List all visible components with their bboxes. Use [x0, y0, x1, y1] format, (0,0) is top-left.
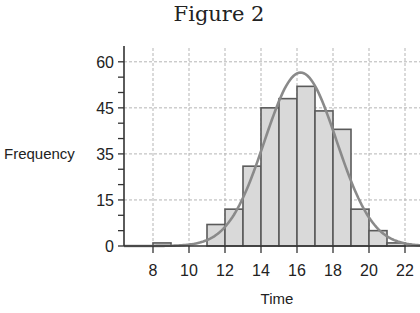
x-tick-label: 8 [149, 262, 158, 279]
x-axis-ticks: 810121416182022 [149, 246, 414, 279]
histogram-bar [333, 129, 351, 246]
x-tick-label: 20 [360, 262, 378, 279]
x-tick-label: 12 [216, 262, 234, 279]
y-tick-label: 15 [96, 192, 114, 209]
y-axis-ticks: 015354560 [96, 54, 124, 255]
y-tick-label: 0 [105, 238, 114, 255]
x-tick-label: 18 [324, 262, 342, 279]
histogram-chart: 015354560 810121416182022 Frequency Time [0, 0, 420, 313]
x-tick-label: 10 [180, 262, 198, 279]
y-axis-label: Frequency [4, 145, 75, 162]
y-tick-label: 60 [96, 54, 114, 71]
x-axis-label: Time [261, 290, 294, 307]
y-tick-label: 45 [96, 100, 114, 117]
x-tick-label: 14 [252, 262, 270, 279]
x-tick-label: 22 [396, 262, 414, 279]
y-tick-label: 35 [96, 146, 114, 163]
histogram-bar [297, 86, 315, 246]
x-tick-label: 16 [288, 262, 306, 279]
histogram-bar [315, 111, 333, 246]
histogram-bar [279, 99, 297, 246]
histogram-bars [153, 86, 405, 246]
